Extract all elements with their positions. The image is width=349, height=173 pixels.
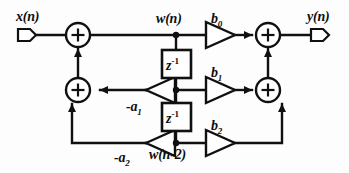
wire-b2-to-adder4-path <box>235 104 282 143</box>
node-label-wn2: w(n-2) <box>149 148 186 162</box>
gain-label-b2: b2 <box>211 119 222 136</box>
gain-base-neg-a1: -a <box>126 99 137 114</box>
gain-sub-neg-a2: 2 <box>125 158 129 168</box>
adder-output-mid <box>256 78 280 102</box>
gain-base-neg-a2: -a <box>114 150 125 165</box>
input-signal-label: x(n) <box>16 10 39 24</box>
gain-base-b2: b <box>211 118 218 133</box>
gain-label-b0: b0 <box>211 12 222 29</box>
output-signal-label: y(n) <box>307 10 330 24</box>
gain-base-b0: b <box>211 11 218 26</box>
junction-dot-wn <box>173 32 179 38</box>
node-label-wn: w(n) <box>156 12 182 26</box>
gain-sub-b1: 1 <box>218 73 222 83</box>
adder-feedback-mid <box>66 78 90 102</box>
gain-label-b1: b1 <box>211 66 222 83</box>
gain-sub-b2: 2 <box>218 126 222 136</box>
junction-dot-wn2 <box>173 140 179 146</box>
gain-label-neg-a1: -a1 <box>126 100 142 117</box>
output-terminal <box>311 29 329 41</box>
iir-filter-diagram: x(n) y(n) w(n) w(n-2) z-1 z-1 b0 b1 b2 -… <box>0 0 349 173</box>
adder-input-top <box>66 23 90 47</box>
adder-output-top <box>256 23 280 47</box>
delay-exp-1: -1 <box>171 56 179 66</box>
gain-label-neg-a2: -a2 <box>114 151 130 168</box>
junction-dot-wn1 <box>173 87 179 93</box>
gain-triangle-neg-a1 <box>146 77 175 103</box>
delay-exp-2: -1 <box>171 109 179 119</box>
delay-label-1: z-1 <box>166 57 179 73</box>
input-terminal <box>18 29 36 41</box>
gain-sub-b0: 0 <box>218 19 222 29</box>
gain-base-b1: b <box>211 65 218 80</box>
gain-sub-neg-a1: 1 <box>137 107 141 117</box>
delay-label-2: z-1 <box>166 110 179 126</box>
